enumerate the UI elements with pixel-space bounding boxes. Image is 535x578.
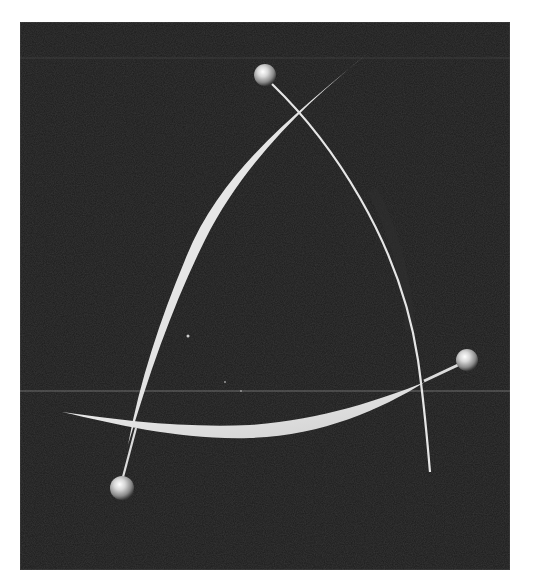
- sphere-bottom-left: [110, 476, 134, 500]
- grain-texture: [20, 22, 510, 570]
- image-stage: Abstract 3D render: three glossy spheres…: [0, 0, 535, 578]
- speck: [224, 381, 226, 383]
- sphere-right: [456, 349, 478, 371]
- speck: [187, 335, 190, 338]
- sphere-top: [254, 64, 276, 86]
- speck: [240, 390, 242, 392]
- abstract-render: [0, 0, 535, 578]
